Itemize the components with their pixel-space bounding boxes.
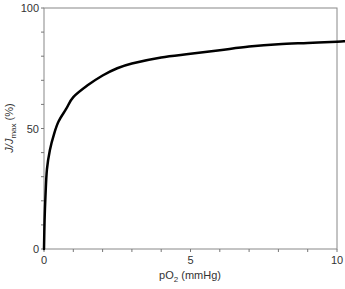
chart: 0510050100 pO2 (mmHg) J/Jmax (%) xyxy=(0,0,345,289)
x-tick-label: 5 xyxy=(187,254,193,266)
y-tick-label: 0 xyxy=(33,243,39,255)
axis-ticks: 0510050100 xyxy=(21,2,343,266)
x-tick-label: 10 xyxy=(331,254,343,266)
y-tick-label: 50 xyxy=(27,123,39,135)
x-tick-label: 0 xyxy=(41,254,47,266)
x-axis-label: pO2 (mmHg) xyxy=(159,269,221,284)
data-curve xyxy=(44,41,345,249)
y-tick-label: 100 xyxy=(21,2,39,14)
y-axis-label: J/Jmax (%) xyxy=(3,103,18,153)
